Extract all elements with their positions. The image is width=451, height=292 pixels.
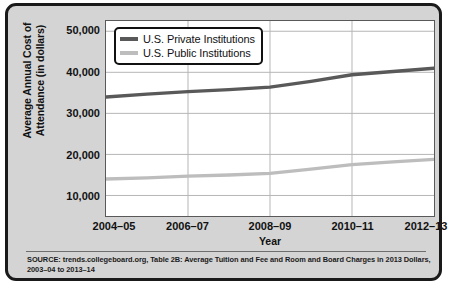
- y-axis-tick-label: 10,000: [66, 190, 100, 202]
- y-axis-title-line-2: Attendance (in dollars): [33, 25, 45, 136]
- y-axis-tick-label: 50,000: [66, 24, 100, 36]
- y-axis-tick-labels: 50,00040,00030,00020,00010,000: [48, 18, 100, 218]
- chart-legend: U.S. Private Institutions U.S. Public In…: [114, 27, 263, 65]
- y-axis-title-line-1: Average Annual Cost of: [21, 22, 33, 138]
- x-axis-tick-label: 2006–07: [166, 220, 209, 232]
- legend-swatch-public: [120, 51, 138, 55]
- y-axis-tick-label: 40,000: [66, 66, 100, 78]
- x-axis-title: Year: [105, 235, 435, 247]
- legend-item-public: U.S. Public Institutions: [120, 46, 255, 60]
- source-note: SOURCE: trends.collegeboard.org, Table 2…: [27, 255, 431, 274]
- y-axis-title: Average Annual Cost of Attendance (in do…: [21, 0, 46, 166]
- legend-item-private: U.S. Private Institutions: [120, 32, 255, 46]
- x-axis-tick-label: 2012–13: [405, 220, 448, 232]
- x-axis-tick-label: 2010–11: [331, 220, 373, 232]
- y-axis-tick-label: 30,000: [66, 107, 100, 119]
- plot-area: U.S. Private Institutions U.S. Public In…: [105, 20, 435, 217]
- legend-label-private: U.S. Private Institutions: [143, 33, 255, 45]
- y-axis-tick-label: 20,000: [66, 149, 100, 161]
- x-axis-tick-label: 2004–05: [93, 220, 136, 232]
- x-axis-tick-label: 2008–09: [249, 220, 292, 232]
- x-axis-tick-labels: 2004–052006–072008–092010–112012–13: [105, 220, 435, 236]
- legend-swatch-private: [120, 37, 138, 41]
- source-divider: [26, 251, 426, 252]
- chart-figure: Average Annual Cost of Attendance (in do…: [5, 3, 442, 281]
- legend-label-public: U.S. Public Institutions: [143, 47, 251, 59]
